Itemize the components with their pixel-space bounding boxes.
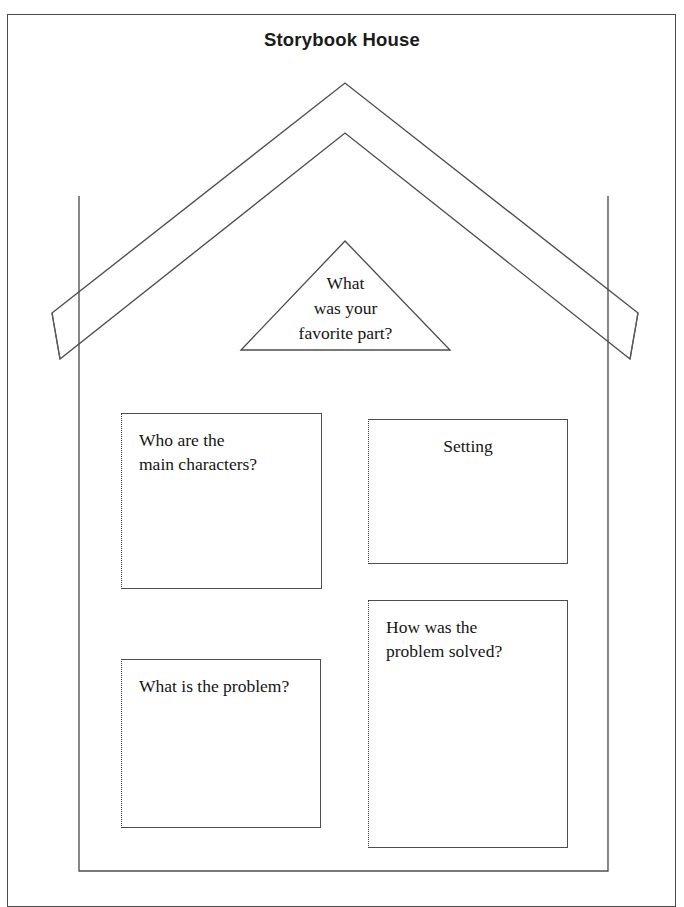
window-problem[interactable]: What is the problem? [121,659,321,828]
window-characters[interactable]: Who are the main characters? [121,413,322,589]
attic-prompt-text: What was your favorite part? [241,271,450,346]
window-solution-label: How was the problem solved? [386,615,557,663]
window-setting-line-1: Setting [379,434,557,458]
window-setting[interactable]: Setting [368,419,568,564]
window-problem-label: What is the problem? [139,674,310,698]
attic-line-2: was your [241,296,450,321]
window-solution-line-1: How was the [386,615,557,639]
window-characters-line-1: Who are the [139,428,311,452]
window-solution-line-2: problem solved? [386,639,557,663]
attic-line-3: favorite part? [241,321,450,346]
roof-right-eave-cap [630,313,638,359]
window-characters-label: Who are the main characters? [139,428,311,476]
window-setting-label: Setting [379,434,557,458]
window-solution[interactable]: How was the problem solved? [368,600,568,848]
window-problem-line-1: What is the problem? [139,674,310,698]
window-characters-line-2: main characters? [139,452,311,476]
roof-left-eave-cap [52,313,60,359]
attic-line-1: What [241,271,450,296]
